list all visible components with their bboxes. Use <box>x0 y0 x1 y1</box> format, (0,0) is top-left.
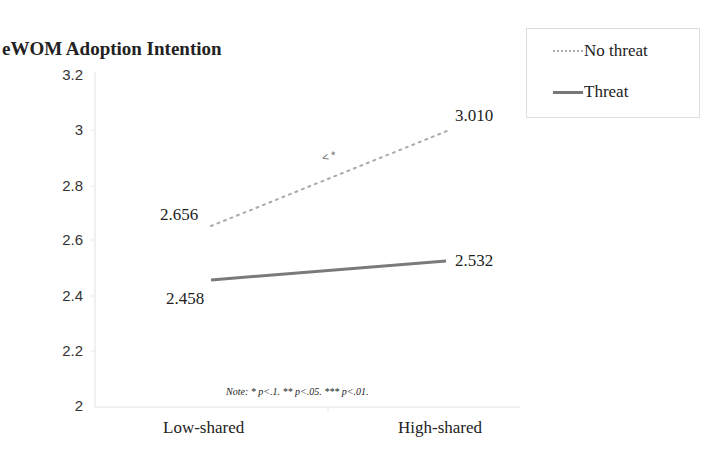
data-label-no-threat-low: 2.656 <box>160 205 198 225</box>
data-label-threat-low: 2.458 <box>166 289 204 309</box>
legend-item-no-threat: No threat <box>553 41 648 61</box>
legend: No threat Threat <box>526 28 700 118</box>
dotted-line-icon <box>553 50 583 52</box>
legend-label: Threat <box>584 82 628 102</box>
x-category-low-shared: Low-shared <box>163 418 244 438</box>
legend-item-threat: Threat <box>553 82 628 102</box>
x-category-high-shared: High-shared <box>398 418 482 438</box>
solid-line-icon <box>553 91 583 94</box>
data-label-no-threat-high: 3.010 <box>455 106 493 126</box>
legend-label: No threat <box>584 41 648 61</box>
significance-note: Note: * p<.1. ** p<.05. *** p<.01. <box>226 386 368 397</box>
threat-line <box>211 261 446 280</box>
data-label-threat-high: 2.532 <box>455 251 493 271</box>
no-threat-line <box>211 131 447 226</box>
